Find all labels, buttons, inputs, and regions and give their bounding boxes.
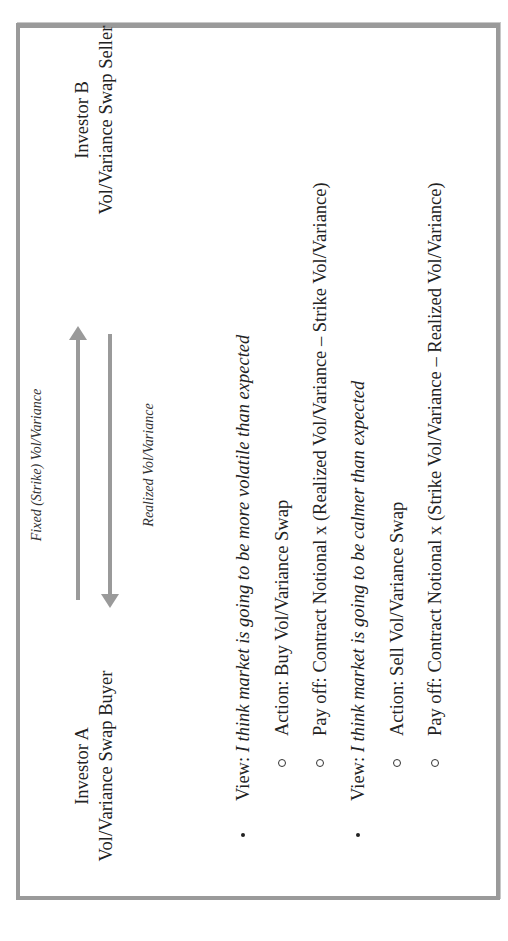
bullet-circle-icon [316,759,324,767]
investor-a-box: Investor A Vol/Variance Swap Buyer [70,661,118,871]
view-prefix: View: [348,752,368,801]
view-text: I think market is going to be calmer tha… [348,381,368,752]
scenario-1-payoff: Pay off: Contract Notional x (Realized V… [309,182,331,736]
scenario-1-view: View: I think market is going to be more… [232,335,254,801]
rotated-diagram-canvas: Investor A Vol/Variance Swap Buyer Inves… [0,0,508,941]
arrow-right-head-icon [69,326,87,340]
scenario-1-action: Action: Buy Vol/Variance Swap [271,500,293,736]
realized-vol-arrow [108,334,112,596]
bullet-circle-icon [393,759,401,767]
bullet-circle-icon [278,759,286,767]
fixed-strike-label: Fixed (Strike) Vol/Variance [29,370,45,560]
scenario-2-payoff: Pay off: Contract Notional x (Strike Vol… [424,182,446,736]
investor-a-role: Vol/Variance Swap Buyer [94,661,118,871]
bullet-dot-icon [241,833,245,837]
fixed-vol-arrow [76,338,80,600]
view-prefix: View: [233,752,253,801]
scenario-2-action: Action: Sell Vol/Variance Swap [386,502,408,736]
bullet-dot-icon [356,833,360,837]
bullet-circle-icon [431,759,439,767]
investor-a-name: Investor A [70,661,94,871]
investor-b-role: Vol/Variance Swap Seller [94,5,118,235]
realized-vol-label: Realized Vol/Variance [141,385,157,545]
scenario-2-view: View: I think market is going to be calm… [347,381,369,801]
investor-b-name: Investor B [70,5,94,235]
view-text: I think market is going to be more volat… [233,335,253,753]
investor-b-box: Investor B Vol/Variance Swap Seller [70,5,118,235]
arrow-left-head-icon [101,594,119,608]
